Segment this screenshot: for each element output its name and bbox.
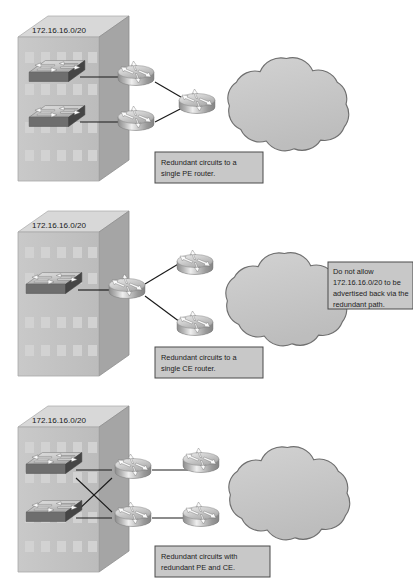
side-note-line-2: 172.16.16.0/20 to be xyxy=(333,278,401,287)
pe-router-icon xyxy=(179,89,215,114)
network-diagram-figure: 172.16.16.0/20 Redundant circuits to a s… xyxy=(0,0,413,583)
diagram-canvas: 172.16.16.0/20 Redundant circuits to a s… xyxy=(0,0,413,583)
pe-router-icon xyxy=(183,502,219,527)
ip-network-label: 172.16.16.0/20 xyxy=(32,221,87,230)
caption-line-2: single PE router. xyxy=(161,169,215,178)
ip-network-label: 172.16.16.0/20 xyxy=(32,26,87,35)
panel-single-ce: 172.16.16.0/20 Redundant circuits to a s… xyxy=(18,211,413,378)
link-ce-pe1 xyxy=(145,263,180,284)
side-note-line-4: redundant path. xyxy=(333,300,385,309)
side-note-box: Do not allow 172.16.16.0/20 to be advert… xyxy=(328,262,413,309)
caption-box: Redundant circuits with redundant PE and… xyxy=(155,546,270,577)
link-ce-pe2 xyxy=(145,296,180,322)
pe-router-icon xyxy=(177,311,213,336)
caption-line-2: redundant PE and CE. xyxy=(161,563,235,572)
caption-line-1: Redundant circuits to a xyxy=(161,353,237,362)
side-note-line-1: Do not allow xyxy=(333,267,374,276)
customer-building: 172.16.16.0/20 xyxy=(18,16,129,186)
side-note-line-3: advertised back via the xyxy=(333,289,409,298)
customer-building: 172.16.16.0/20 xyxy=(18,406,129,572)
service-provider-cloud xyxy=(228,58,349,151)
panel-redundant-pe-ce: 172.16.16.0/20 Redundant circuits with r… xyxy=(18,406,350,577)
ip-network-label: 172.16.16.0/20 xyxy=(32,416,87,425)
panel-single-pe: 172.16.16.0/20 Redundant circuits to a s… xyxy=(18,16,349,186)
caption-line-1: Redundant circuits with xyxy=(161,552,237,561)
service-provider-cloud xyxy=(229,447,350,540)
pe-router-icon xyxy=(177,250,213,275)
caption-box: Redundant circuits to a single CE router… xyxy=(155,347,263,378)
caption-line-2: single CE router. xyxy=(161,364,216,373)
caption-box: Redundant circuits to a single PE router… xyxy=(155,152,263,183)
pe-router-icon xyxy=(183,448,219,473)
caption-line-1: Redundant circuits to a xyxy=(161,158,237,167)
